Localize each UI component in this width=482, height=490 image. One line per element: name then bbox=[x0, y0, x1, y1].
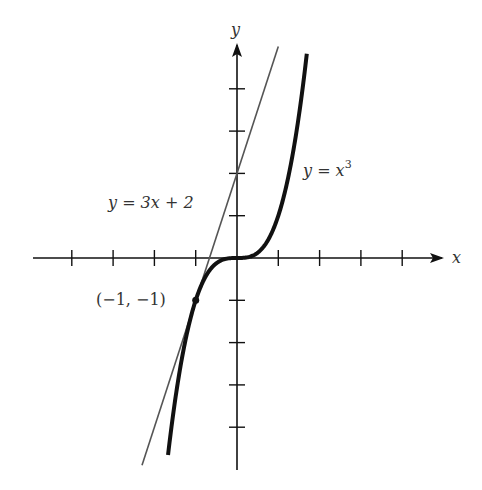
chart: x y y = x3 y = 3x + 2 (−1, −1) bbox=[0, 0, 482, 490]
x-axis-label: x bbox=[452, 248, 461, 267]
curves bbox=[142, 47, 307, 466]
tangent-label: y = 3x + 2 bbox=[107, 193, 194, 212]
cubic-label: y = x3 bbox=[302, 158, 352, 180]
tangent-line bbox=[142, 47, 278, 466]
y-axis-label: y bbox=[230, 20, 241, 39]
point-annotation: (−1, −1) bbox=[96, 290, 166, 309]
tangent-point bbox=[192, 297, 199, 304]
